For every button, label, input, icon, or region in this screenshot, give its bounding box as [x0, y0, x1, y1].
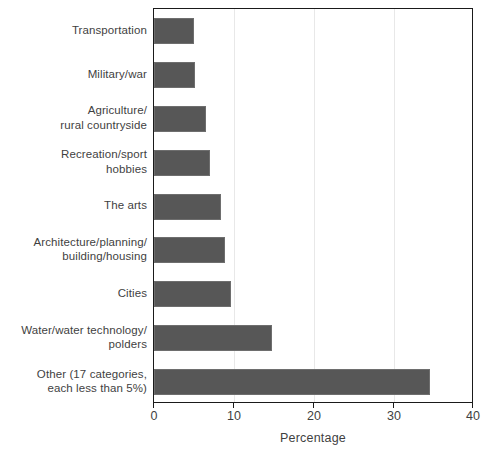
category-label: Other (17 categories, each less than 5%) — [0, 367, 147, 396]
category-label: The arts — [0, 198, 147, 213]
x-tick-label-30: 30 — [387, 409, 401, 423]
plot-area — [153, 8, 473, 403]
x-tick-mark — [472, 403, 473, 408]
category-label: Military/war — [0, 67, 147, 82]
category-label: Transportation — [0, 23, 147, 38]
category-label: Water/water technology/ polders — [0, 323, 147, 352]
gridline — [314, 9, 315, 402]
x-tick-mark — [313, 403, 314, 408]
gridline — [394, 9, 395, 402]
x-tick-label-10: 10 — [227, 409, 241, 423]
category-label: Cities — [0, 286, 147, 301]
category-label: Agriculture/ rural countryside — [0, 103, 147, 132]
x-tick-label-20: 20 — [307, 409, 321, 423]
x-tick-label-0: 0 — [151, 409, 158, 423]
category-label: Architecture/planning/ building/housing — [0, 235, 147, 264]
x-tick-label-40: 40 — [466, 409, 480, 423]
x-tick-mark — [233, 403, 234, 408]
bar — [154, 369, 430, 395]
bar — [154, 106, 206, 132]
bar-chart-figure: 0 10 20 30 40 Percentage TransportationM… — [0, 0, 494, 457]
x-tick-mark — [393, 403, 394, 408]
category-label: Recreation/sport hobbies — [0, 147, 147, 176]
bar — [154, 18, 194, 44]
x-axis-title: Percentage — [153, 431, 473, 445]
x-tick-mark — [153, 403, 154, 408]
bar — [154, 150, 210, 176]
bar — [154, 62, 195, 88]
bar — [154, 237, 225, 263]
bar — [154, 194, 221, 220]
bar — [154, 281, 231, 307]
bar — [154, 325, 272, 351]
